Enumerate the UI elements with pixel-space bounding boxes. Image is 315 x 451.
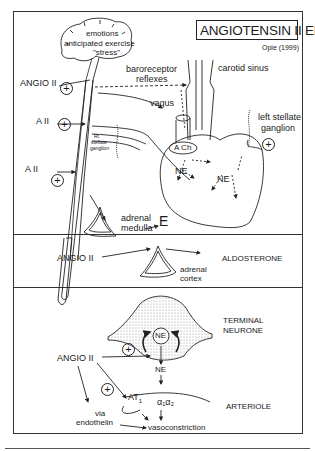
label-ach: A Ch — [174, 144, 191, 152]
label-vasoconstriction: vasoconstriction — [148, 424, 205, 432]
label-ganglion: ganglion — [261, 124, 295, 133]
label-via: via — [95, 410, 105, 418]
figure-title: ANGIOTENSIN II EFFECTS — [200, 24, 315, 38]
figure-credit: Opie (1999) — [262, 44, 299, 51]
label-medulla: medulla — [121, 224, 153, 233]
label-a-ii-lower: A II — [25, 165, 38, 174]
label-epinephrine: E — [159, 214, 168, 228]
plus-icon: + — [51, 174, 64, 187]
label-aldosterone: ALDOSTERONE — [222, 255, 282, 263]
label-anticipated-exercise: anticipated exercise — [64, 40, 135, 48]
label-a-ii-upper: A II — [36, 117, 49, 126]
label-emotions: emotions — [86, 30, 118, 38]
label-angio-ii-bottom: ANGIO II — [57, 354, 94, 363]
plus-icon: + — [262, 138, 275, 151]
label-terminal: TERMINAL — [223, 317, 263, 325]
label-alpha-receptors: α₁α₂ — [157, 398, 174, 407]
label-ne-released: NE — [155, 366, 166, 374]
label-rt-ganglion: ganglion — [90, 146, 109, 151]
label-adrenal: adrenal — [121, 214, 151, 223]
plus-icon: + — [122, 343, 135, 356]
plus-icon: + — [101, 383, 114, 396]
label-vagus: vagus — [150, 99, 174, 108]
label-ne-right: NE — [217, 175, 230, 184]
label-angio-ii-top: ANGIO II — [20, 79, 57, 88]
label-arteriole: ARTERIOLE — [226, 403, 271, 411]
label-reflexes: reflexes — [136, 75, 168, 84]
label-endothelin: endothelin — [76, 419, 113, 427]
label-baroreceptor: baroreceptor — [126, 65, 177, 74]
label-ne-vesicle: NE — [155, 332, 166, 340]
label-neurone: NEURONE — [223, 327, 263, 335]
label-left-stellate: left stellate — [258, 113, 301, 122]
plus-icon: + — [60, 82, 73, 95]
label-adrenal-cortex-2: cortex — [180, 275, 202, 283]
label-angio-ii-middle: ANGIO II — [57, 254, 94, 263]
label-ne-left: NE — [175, 167, 188, 176]
label-adrenal-cortex-1: adrenal — [180, 266, 207, 274]
label-at1: AT1 — [128, 393, 142, 404]
plus-icon: + — [58, 118, 71, 131]
label-stress: "stress" — [93, 49, 120, 57]
label-carotid-sinus: carotid sinus — [218, 64, 269, 73]
